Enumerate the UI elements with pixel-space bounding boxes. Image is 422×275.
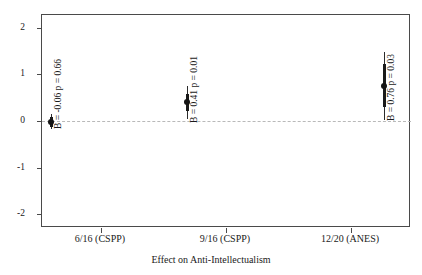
y-tick-mark--1 — [37, 168, 42, 169]
y-tick-label-2: 2 — [3, 23, 25, 33]
y-tick-label-1: 1 — [3, 69, 25, 79]
y-tick-label-minus-1: -1 — [3, 163, 25, 173]
y-tick-mark--2 — [37, 214, 42, 215]
y-tick-mark-0 — [37, 121, 42, 122]
estimate-annotation-2: B = 0.41 p = 0.01 — [190, 56, 200, 123]
estimate-annotation-1: B = -0.06 p = 0.66 — [54, 59, 64, 129]
x-tick-label-12-20-anes: 12/20 (ANES) — [285, 234, 415, 244]
y-tick-mark-2 — [37, 28, 42, 29]
y-tick-label-0: 0 — [3, 116, 25, 126]
y-tick-label-minus-2: -2 — [3, 209, 25, 219]
x-tick-label-6-16-cspp: 6/16 (CSPP) — [35, 234, 165, 244]
coefficient-plot-figure: 2 1 0 -1 -2 B = -0.06 p = 0.66 B = 0.41 … — [0, 0, 422, 275]
plot-area: 2 1 0 -1 -2 B = -0.06 p = 0.66 B = 0.41 … — [41, 14, 410, 227]
x-axis-title: Effect on Anti-Intellectualism — [0, 254, 422, 265]
estimate-annotation-3: B = 0.76 p = 0.03 — [387, 54, 397, 121]
zero-reference-line — [42, 121, 411, 122]
y-tick-mark-1 — [37, 74, 42, 75]
x-tick-label-9-16-cspp: 9/16 (CSPP) — [160, 234, 290, 244]
